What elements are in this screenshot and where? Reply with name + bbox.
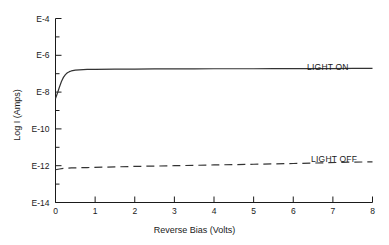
x-tick-label: 5 [251, 207, 256, 216]
y-tick-label: E-8 [36, 88, 49, 97]
x-tick-label: 3 [172, 207, 177, 216]
x-tick-label: 4 [212, 207, 217, 216]
x-tick-label: 2 [132, 207, 137, 216]
x-tick-label: 7 [331, 207, 336, 216]
chart-figure: E-4E-6E-8E-10E-12E-14 012345678 LIGHT ON… [0, 0, 389, 245]
y-axis-title: Log I (Amps) [12, 60, 22, 170]
y-tick-label: E-14 [32, 198, 50, 207]
y-tick-label: E-6 [36, 51, 49, 60]
series-annotation-light-off: LIGHT OFF [311, 154, 357, 164]
x-tick-label: 6 [291, 207, 296, 216]
axes-group [56, 19, 373, 203]
x-tick-label: 1 [93, 207, 98, 216]
x-axis-title: Reverse Bias (Volts) [0, 225, 389, 235]
y-tick-label: E-10 [32, 125, 50, 134]
series-annotation-light-on: LIGHT ON [307, 62, 349, 72]
series-line-light-on [56, 68, 373, 98]
y-tick-label: E-4 [36, 14, 49, 23]
x-tick-label: 8 [370, 207, 375, 216]
x-tick-label: 0 [53, 207, 58, 216]
y-tick-label: E-12 [32, 161, 50, 170]
